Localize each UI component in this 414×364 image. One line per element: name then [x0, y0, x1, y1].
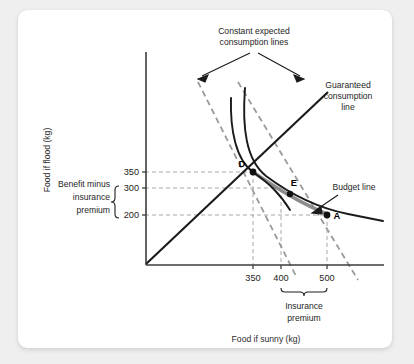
data-point-A[interactable] [324, 212, 331, 219]
benefit-bracket [111, 186, 119, 218]
constant-expected-consumption-line-left [198, 82, 297, 278]
constant-expected-lines-arrows [198, 53, 304, 82]
data-point-D[interactable] [250, 169, 257, 176]
insurance-premium-label-line1: Insurance [285, 301, 323, 311]
guaranteed-line-annotation-line1: Guaranteed [325, 80, 371, 90]
data-point-label-D: D [239, 158, 246, 169]
guaranteed-consumption-line [146, 92, 328, 264]
constant-expected-lines-annotation-line1: Constant expected [218, 26, 290, 36]
guaranteed-line-annotation-line3: line [341, 102, 355, 112]
y-axis-title: Food if flood (kg) [42, 128, 52, 193]
constant-expected-consumption-lines [198, 82, 358, 280]
benefit-bracket-label-line2: insurance [73, 192, 110, 202]
y-tick-label-300: 300 [124, 183, 139, 193]
x-tick-label-400: 400 [273, 273, 288, 283]
data-point-label-E: E [291, 177, 297, 188]
economics-insurance-chart: 350 300 200 350 400 500 D E A Constant e… [18, 10, 392, 348]
figure-card: 350 300 200 350 400 500 D E A Constant e… [18, 10, 392, 348]
benefit-bracket-label-line3: premium [77, 205, 110, 215]
arrow-left-shaft [202, 53, 250, 76]
arrow-right-shaft [258, 53, 300, 76]
y-tick-label-200: 200 [124, 210, 139, 220]
x-tick-label-500: 500 [319, 273, 334, 283]
insurance-premium-label-line2: premium [287, 313, 320, 323]
guide-lines [145, 172, 327, 265]
insurance-premium-bracket [281, 288, 327, 296]
constant-expected-lines-annotation-line2: consumption lines [220, 37, 289, 47]
benefit-bracket-label-line1: Benefit minus [58, 179, 110, 189]
data-point-E[interactable] [287, 191, 293, 197]
y-tick-label-350: 350 [124, 167, 139, 177]
constant-expected-consumption-line-right [238, 82, 358, 280]
x-axis-title: Food if sunny (kg) [232, 334, 301, 344]
x-tick-label-350: 350 [245, 273, 260, 283]
budget-line-annotation: Budget line [332, 182, 375, 192]
guaranteed-line-annotation-line2: consumption [324, 91, 373, 101]
axis-ticks [142, 172, 327, 269]
data-point-label-A: A [334, 210, 341, 221]
indifference-curve-outer [244, 88, 383, 221]
